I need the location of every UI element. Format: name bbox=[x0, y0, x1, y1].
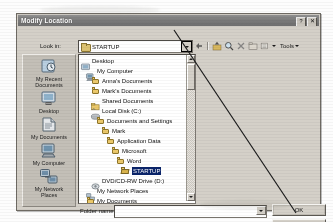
dialog-body: Look in: STARTUP bbox=[18, 26, 319, 209]
folder-icon bbox=[106, 137, 115, 145]
places-item-my-computer[interactable]: My Computer bbox=[24, 142, 74, 166]
delete-x-icon[interactable] bbox=[236, 41, 246, 51]
tree-item[interactable]: DVD/CD-RW Drive (D:) bbox=[80, 176, 187, 186]
up-folder-icon[interactable] bbox=[212, 41, 222, 51]
new-folder-icon[interactable] bbox=[248, 41, 258, 51]
folder-name-combobox[interactable] bbox=[114, 205, 267, 218]
folder-icon bbox=[96, 117, 105, 125]
tree-item[interactable]: Microsoft bbox=[80, 146, 187, 156]
tools-menu-label: Tools bbox=[280, 43, 294, 49]
search-icon[interactable] bbox=[224, 41, 234, 51]
tree-item-label: Application Data bbox=[117, 137, 161, 145]
places-item-my-network-places[interactable]: My Network Places bbox=[24, 168, 74, 198]
window-title: Modify Location bbox=[18, 17, 72, 24]
desktop-icon bbox=[39, 90, 59, 107]
places-item-my-documents[interactable]: My Documents bbox=[24, 116, 74, 140]
tree-item[interactable]: Mark bbox=[80, 126, 187, 136]
places-item-label: My Computer bbox=[33, 160, 65, 166]
scroll-down-arrow-icon[interactable] bbox=[187, 193, 195, 201]
tree-scrollbar[interactable] bbox=[186, 55, 195, 201]
places-item-label: My Documents bbox=[31, 134, 67, 140]
my-documents-icon bbox=[39, 116, 59, 133]
computer-small-icon bbox=[86, 67, 95, 75]
tree-item-label: Mark bbox=[112, 127, 125, 135]
folder-icon bbox=[91, 87, 100, 95]
views-chevron-down-icon[interactable] bbox=[272, 45, 276, 47]
tree-item-label: My Documents bbox=[97, 197, 137, 204]
shared-folder-icon bbox=[91, 97, 100, 105]
title-bar[interactable]: Modify Location ? ✕ bbox=[18, 15, 319, 26]
scrollbar-track[interactable] bbox=[187, 90, 195, 192]
tree-item-label: My Network Places bbox=[97, 187, 148, 195]
modify-location-dialog: Modify Location ? ✕ Look in: STARTUP bbox=[16, 13, 321, 211]
places-item-label: My Network Places bbox=[35, 186, 63, 198]
places-sidebar: My Recent DocumentsDesktopMy DocumentsMy… bbox=[22, 54, 76, 207]
hard-drive-icon bbox=[91, 107, 100, 115]
tools-chevron-down-icon bbox=[295, 45, 299, 47]
help-button[interactable]: ? bbox=[296, 17, 306, 27]
places-item-my-recent-documents[interactable]: My Recent Documents bbox=[24, 58, 74, 88]
folder-open-icon bbox=[121, 167, 130, 175]
screenshot-page: Modify Location ? ✕ Look in: STARTUP bbox=[0, 0, 333, 222]
tree-item[interactable]: Desktop bbox=[80, 56, 187, 66]
network-places-icon bbox=[39, 168, 59, 185]
optical-drive-icon bbox=[91, 177, 100, 185]
folder-name-chevron-down-icon[interactable] bbox=[256, 206, 266, 215]
recent-documents-icon bbox=[39, 58, 59, 75]
cancel-button[interactable]: Cancel bbox=[272, 219, 326, 222]
folder-icon bbox=[111, 147, 120, 155]
tree-item[interactable]: Documents and Settings bbox=[80, 116, 187, 126]
toolbar-separator bbox=[207, 42, 209, 50]
folder-icon bbox=[86, 197, 95, 204]
tree-item[interactable]: My Computer bbox=[80, 66, 187, 76]
tree-item-label: Local Disk (C:) bbox=[102, 107, 141, 115]
folder-icon bbox=[101, 127, 110, 135]
folder-tree-list: DesktopMy ComputerAnna's DocumentsMark's… bbox=[79, 55, 187, 204]
look-in-label: Look in: bbox=[40, 43, 61, 49]
back-arrow-icon[interactable] bbox=[194, 41, 204, 51]
folder-icon bbox=[91, 77, 100, 85]
ok-button[interactable]: OK bbox=[272, 204, 326, 216]
tree-item[interactable]: My Documents bbox=[80, 196, 187, 204]
scroll-up-arrow-icon[interactable] bbox=[187, 55, 195, 63]
scroll-down-button[interactable] bbox=[187, 193, 195, 201]
network-places-icon bbox=[86, 187, 95, 195]
tree-item-label: Word bbox=[127, 157, 141, 165]
tree-item-label: DVD/CD-RW Drive (D:) bbox=[102, 177, 164, 185]
toolbar: Tools bbox=[194, 40, 314, 51]
look-in-combobox[interactable]: STARTUP bbox=[78, 40, 193, 53]
tree-item-label: STARTUP bbox=[132, 167, 161, 175]
desktop-small-icon bbox=[81, 57, 90, 65]
tree-item-label: Documents and Settings bbox=[107, 117, 172, 125]
title-bar-buttons: ? ✕ bbox=[296, 17, 317, 27]
folder-tree-pane[interactable]: DesktopMy ComputerAnna's DocumentsMark's… bbox=[78, 54, 196, 204]
scrollbar-thumb[interactable] bbox=[187, 64, 195, 90]
my-computer-icon bbox=[39, 142, 59, 159]
views-list-icon[interactable] bbox=[260, 41, 270, 51]
tree-item[interactable]: Word bbox=[80, 156, 187, 166]
tree-item[interactable]: Local Disk (C:) bbox=[80, 106, 187, 116]
tree-item[interactable]: Mark's Documents bbox=[80, 86, 187, 96]
tree-item[interactable]: Application Data bbox=[80, 136, 187, 146]
tree-item-label: Anna's Documents bbox=[102, 77, 152, 85]
look-in-dropdown-arrow-icon[interactable] bbox=[181, 41, 192, 52]
tree-item-label: Mark's Documents bbox=[102, 87, 152, 95]
tree-item[interactable]: Shared Documents bbox=[80, 96, 187, 106]
folder-icon bbox=[81, 43, 89, 50]
places-item-desktop[interactable]: Desktop bbox=[24, 90, 74, 114]
tree-item[interactable]: Anna's Documents bbox=[80, 76, 187, 86]
folder-icon bbox=[116, 157, 125, 165]
tools-menu-button[interactable]: Tools bbox=[280, 43, 299, 49]
tree-item[interactable]: STARTUP bbox=[80, 166, 187, 176]
tree-item-label: Desktop bbox=[92, 57, 114, 65]
places-item-label: My Recent Documents bbox=[35, 76, 62, 88]
places-item-label: Desktop bbox=[39, 108, 59, 114]
tree-item-label: Microsoft bbox=[122, 147, 146, 155]
look-in-value: STARTUP bbox=[92, 44, 119, 50]
tree-item-label: My Computer bbox=[97, 67, 133, 75]
folder-name-label: Folder name: bbox=[80, 208, 115, 214]
close-icon[interactable]: ✕ bbox=[307, 17, 317, 27]
tree-item-label: Shared Documents bbox=[102, 97, 153, 105]
